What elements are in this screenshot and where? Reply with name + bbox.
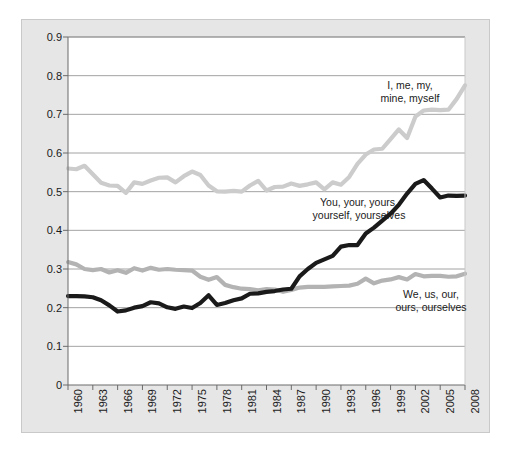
x-axis: 1960196319661969197219751978198119841987… bbox=[68, 389, 465, 433]
y-tick-label: 0.1 bbox=[18, 340, 62, 352]
x-tick-label: 1966 bbox=[122, 389, 134, 413]
chart-screenshot: 0.90.80.70.60.50.40.30.20.10 19601963196… bbox=[0, 0, 509, 462]
series-annotation-i-me-my: I, me, my, mine, myself bbox=[358, 79, 462, 104]
y-axis: 0.90.80.70.60.50.40.30.20.10 bbox=[14, 37, 62, 385]
x-tick-label: 1963 bbox=[97, 389, 109, 413]
x-tick-label: 1972 bbox=[171, 389, 183, 413]
y-tick-label: 0 bbox=[18, 379, 62, 391]
y-tick-label: 0.8 bbox=[18, 70, 62, 82]
y-tick-label: 0.5 bbox=[18, 186, 62, 198]
x-tick-label: 1996 bbox=[370, 389, 382, 413]
x-tick-label: 1975 bbox=[196, 389, 208, 413]
series-annotation-you-your: You, your, yours, yourself, yourselves bbox=[296, 196, 422, 221]
x-tick-label: 2005 bbox=[444, 389, 456, 413]
y-tick-label: 0.3 bbox=[18, 263, 62, 275]
x-tick-label: 1978 bbox=[221, 389, 233, 413]
y-tick-label: 0.2 bbox=[18, 302, 62, 314]
x-tick-label: 1960 bbox=[72, 389, 84, 413]
x-tick-label: 1987 bbox=[295, 389, 307, 413]
x-tick-label: 1990 bbox=[320, 389, 332, 413]
y-tick-label: 0.4 bbox=[18, 224, 62, 236]
y-tick-label: 0.6 bbox=[18, 147, 62, 159]
series-annotation-we-us-our: We, us, our, ours, ourselves bbox=[376, 288, 486, 313]
x-tick-label: 1999 bbox=[395, 389, 407, 413]
y-tick-label: 0.7 bbox=[18, 108, 62, 120]
x-tick-label: 1993 bbox=[345, 389, 357, 413]
x-tick-label: 2008 bbox=[469, 389, 481, 413]
x-tick-label: 1984 bbox=[271, 389, 283, 413]
x-tick-label: 1981 bbox=[246, 389, 258, 413]
x-tick-label: 2002 bbox=[419, 389, 431, 413]
y-tick-label: 0.9 bbox=[18, 31, 62, 43]
x-tick-label: 1969 bbox=[146, 389, 158, 413]
